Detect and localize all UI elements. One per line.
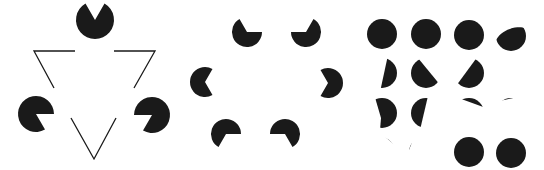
grid-disk: [409, 137, 439, 167]
grid-disk: [365, 137, 395, 167]
grid-disk: [411, 58, 441, 88]
illusion-figure: Kanizsa triangle Illusory hexagon Occlud…: [0, 0, 544, 170]
pacman-inducer: [190, 67, 213, 97]
pacman-inducer: [291, 19, 321, 47]
grid-disk: [496, 138, 526, 168]
grid-disk: [454, 98, 484, 128]
pacman-inducer: [232, 19, 262, 47]
occluded-disk-grid-panel: [365, 19, 526, 168]
pacman-inducer: [18, 96, 54, 132]
grid-disk: [454, 20, 484, 50]
triangle-outline-segment: [34, 51, 75, 88]
grid-disk: [454, 137, 484, 167]
pacman-inducer: [211, 119, 241, 147]
kanizsa-triangle-panel: [18, 4, 170, 159]
pacman-inducer: [270, 119, 300, 147]
pacman-inducer: [134, 97, 170, 133]
grid-disk: [367, 98, 397, 128]
pacman-inducer: [321, 68, 344, 98]
grid-disk: [496, 98, 526, 128]
grid-disk: [496, 21, 526, 51]
triangle-outline-segment: [114, 51, 155, 88]
grid-disk: [411, 98, 441, 128]
illusory-hexagon-panel: [190, 19, 343, 147]
figure-canvas: [0, 0, 544, 170]
grid-disk: [411, 19, 441, 49]
grid-disk: [454, 58, 484, 88]
grid-disk: [367, 19, 397, 49]
grid-disk: [367, 58, 397, 88]
pacman-inducer: [76, 4, 114, 39]
triangle-outline-segment: [71, 118, 116, 159]
